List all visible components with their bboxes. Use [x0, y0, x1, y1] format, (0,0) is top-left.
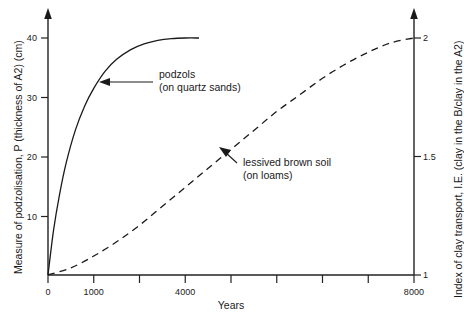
x-tick-label-1000: 1000 — [84, 287, 104, 297]
right-axis — [410, 8, 418, 275]
x-tick-label-0: 0 — [45, 287, 50, 297]
left-axis-ticks — [41, 38, 48, 217]
right-tick-label-2: 2 — [423, 33, 428, 43]
x-axis-title: Years — [218, 299, 244, 311]
annotation-lessived: lessived brown soil (on loams) — [243, 156, 331, 182]
x-tick-label-8000: 8000 — [404, 287, 424, 297]
left-axis-title: Measure of podzolisation, P (thickness o… — [12, 40, 24, 274]
annotation-podzols-line2: (on quartz sands) — [159, 81, 241, 94]
right-tick-label-1-5: 1.5 — [423, 152, 436, 162]
x-axis-ticks — [48, 275, 414, 283]
right-axis-title: Index of clay transport, I.E. (clay in t… — [452, 41, 464, 298]
annotation-lessived-line1: lessived brown soil — [243, 156, 331, 169]
annotation-podzols-line1: podzols — [159, 68, 241, 81]
lessived-annotation-leader — [219, 147, 237, 163]
podzols-annotation-leader — [99, 78, 153, 86]
right-axis-ticks — [414, 38, 421, 275]
annotation-lessived-line2: (on loams) — [243, 169, 331, 182]
x-tick-label-4000: 4000 — [175, 287, 195, 297]
left-axis — [44, 8, 52, 275]
annotation-podzols: podzols (on quartz sands) — [159, 68, 241, 94]
right-tick-label-1: 1 — [423, 270, 428, 280]
